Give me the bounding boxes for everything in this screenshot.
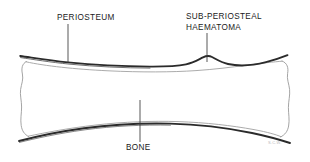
anatomical-diagram-svg	[0, 0, 310, 162]
label-periosteum: PERIOSTEUM	[57, 13, 115, 24]
bone-left-end-outline	[20, 62, 28, 137]
label-haematoma-line-1: SUB-PERIOSTEAL	[186, 12, 262, 23]
periosteum-top-line	[20, 55, 287, 66]
artist-signature: S.C.W.	[268, 140, 282, 145]
label-sub-periosteal-haematoma: SUB-PERIOSTEAL HAEMATOMA	[186, 12, 262, 33]
figure-root: PERIOSTEUM SUB-PERIOSTEAL HAEMATOMA BONE…	[0, 0, 310, 162]
bone-right-end-outline	[281, 61, 290, 137]
periosteum-bottom-line	[19, 123, 290, 143]
label-bone: BONE	[126, 143, 151, 154]
label-haematoma-line-2: HAEMATOMA	[186, 23, 262, 34]
